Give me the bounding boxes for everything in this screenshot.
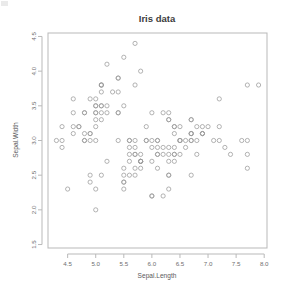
corner-artifact xyxy=(1,1,8,6)
scatter-plot-canvas: Iris data 4.55.05.56.06.57.07.58.0 1.52.… xyxy=(0,0,281,298)
x-tick-label: 5.5 xyxy=(120,260,129,267)
y-tick-label: 1.5 xyxy=(30,240,37,249)
y-tick-label: 4.0 xyxy=(30,66,37,75)
plot-container: Iris data 4.55.05.56.06.57.07.58.0 1.52.… xyxy=(0,0,281,298)
x-tick-label: 4.5 xyxy=(63,260,72,267)
page-title: Iris data xyxy=(139,13,176,24)
x-tick-label: 7.5 xyxy=(232,260,241,267)
x-tick-label: 6.0 xyxy=(148,260,157,267)
x-tick-label: 5.0 xyxy=(91,260,100,267)
x-tick-label: 8.0 xyxy=(260,260,269,267)
y-tick-label: 3.0 xyxy=(30,136,37,145)
x-tick-label: 7.0 xyxy=(204,260,213,267)
y-tick-label: 4.5 xyxy=(30,32,37,41)
y-tick-label: 2.0 xyxy=(30,205,37,214)
x-tick-label: 6.5 xyxy=(176,260,185,267)
x-axis-label: Sepal.Length xyxy=(138,272,177,280)
y-tick-label: 2.5 xyxy=(30,170,37,179)
y-tick-label: 3.5 xyxy=(30,101,37,110)
y-axis-label: Sepal.Width xyxy=(12,122,20,158)
